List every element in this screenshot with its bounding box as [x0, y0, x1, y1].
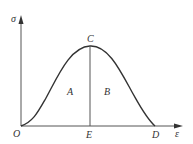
point-e-label: E [85, 129, 92, 140]
point-d-label: D [151, 129, 160, 140]
y-axis-label: σ [11, 13, 17, 24]
region-a-label: A [66, 86, 74, 97]
x-axis-label: ε [175, 128, 179, 139]
y-axis-arrow-icon [19, 15, 24, 24]
point-c-label: C [87, 33, 94, 44]
stress-strain-diagram: σ ε C A B O E D [0, 0, 193, 144]
point-o-label: O [13, 128, 20, 139]
stress-strain-curve [21, 46, 155, 126]
region-b-label: B [104, 86, 110, 97]
